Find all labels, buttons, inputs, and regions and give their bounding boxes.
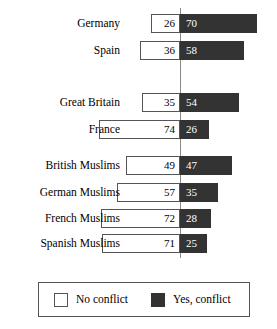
bar-value-no-conflict: 74 xyxy=(164,124,179,135)
bar-segment-no-conflict: 35 xyxy=(142,93,181,112)
category-label: British Muslims xyxy=(46,156,120,175)
category-label: Spain xyxy=(94,41,120,60)
bar-value-no-conflict: 71 xyxy=(164,238,179,249)
bar-value-no-conflict: 26 xyxy=(164,18,179,29)
legend-label-no-conflict: No conflict xyxy=(76,294,128,306)
bar-row: 3554 xyxy=(142,93,240,112)
diverging-bar-chart: 2670Germany3658Spain3554Great Britain742… xyxy=(0,0,277,329)
bar-segment-yes-conflict: 35 xyxy=(180,183,219,202)
bar-row: 4947 xyxy=(126,156,232,175)
bar-segment-yes-conflict: 28 xyxy=(180,209,211,228)
bar-value-yes-conflict: 35 xyxy=(181,187,197,198)
plot-area: 2670Germany3658Spain3554Great Britain742… xyxy=(0,0,277,268)
bar-value-yes-conflict: 47 xyxy=(181,160,197,171)
bar-value-no-conflict: 35 xyxy=(164,97,179,108)
bar-segment-yes-conflict: 70 xyxy=(180,14,257,33)
bar-segment-yes-conflict: 58 xyxy=(180,41,244,60)
bar-value-yes-conflict: 26 xyxy=(181,124,197,135)
category-label: Germany xyxy=(77,14,120,33)
legend-item-yes-conflict: Yes, conflict xyxy=(151,292,231,308)
bar-segment-yes-conflict: 25 xyxy=(180,234,208,253)
legend-item-no-conflict: No conflict xyxy=(54,292,128,308)
bar-value-yes-conflict: 54 xyxy=(181,97,197,108)
bar-value-yes-conflict: 28 xyxy=(181,213,197,224)
bar-value-no-conflict: 36 xyxy=(164,45,179,56)
empty-square-swatch xyxy=(54,293,68,307)
bar-segment-yes-conflict: 54 xyxy=(180,93,239,112)
category-label: Spanish Muslims xyxy=(40,234,120,253)
chart-legend: No conflict Yes, conflict xyxy=(38,282,250,317)
category-label: Great Britain xyxy=(60,93,120,112)
bar-segment-no-conflict: 36 xyxy=(140,41,180,60)
bar-segment-no-conflict: 57 xyxy=(117,183,180,202)
bar-segment-no-conflict: 49 xyxy=(126,156,180,175)
bar-row: 2670 xyxy=(151,14,257,33)
bar-value-no-conflict: 72 xyxy=(164,213,179,224)
bar-value-no-conflict: 57 xyxy=(164,187,179,198)
bar-row: 5735 xyxy=(117,183,218,202)
legend-label-yes-conflict: Yes, conflict xyxy=(173,294,231,306)
bar-value-yes-conflict: 70 xyxy=(181,18,197,29)
bar-segment-no-conflict: 26 xyxy=(151,14,180,33)
category-label: German Muslims xyxy=(40,183,120,202)
bar-value-yes-conflict: 58 xyxy=(181,45,197,56)
bar-value-no-conflict: 49 xyxy=(164,160,179,171)
bar-value-yes-conflict: 25 xyxy=(181,238,197,249)
bar-segment-yes-conflict: 26 xyxy=(180,120,209,139)
category-label: France xyxy=(89,120,120,139)
filled-square-swatch xyxy=(151,293,165,307)
category-label: French Muslims xyxy=(45,209,120,228)
bar-segment-yes-conflict: 47 xyxy=(180,156,232,175)
bar-row: 3658 xyxy=(140,41,243,60)
